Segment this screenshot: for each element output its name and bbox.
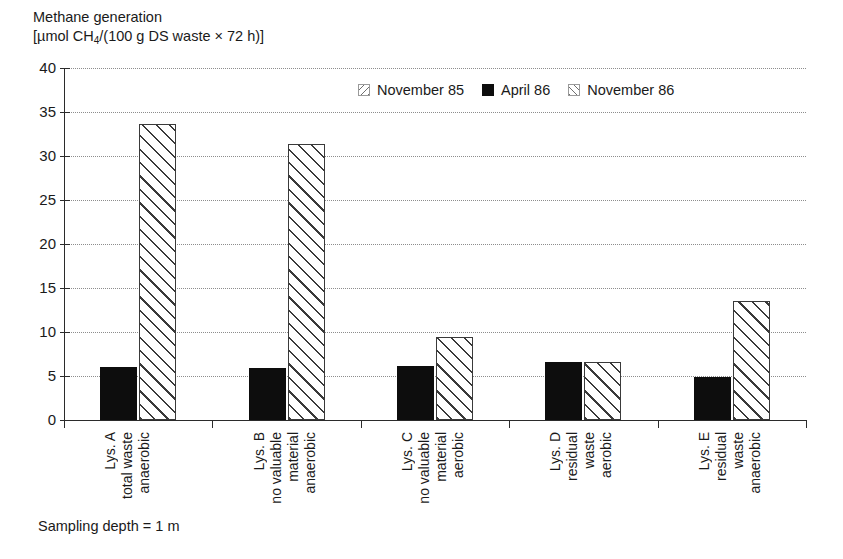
x-category-label-line: Lys. E: [696, 432, 713, 470]
gridline: [64, 68, 806, 69]
y-tick-label: 40: [39, 59, 56, 76]
x-category-label-line: residual: [564, 432, 581, 481]
bar-april-86-a: [100, 367, 137, 420]
x-category-label-lys-c: Lys. Cno valuablematerialaerobic: [399, 432, 467, 528]
x-axis-spine: [64, 420, 807, 421]
x-category-label-line: Lys. C: [399, 432, 416, 471]
x-category-label-line: total waste: [119, 432, 136, 499]
y-tick-label: 10: [39, 323, 56, 340]
chart-axis-title: Methane generation [µmol CH4/(100 g DS w…: [33, 8, 264, 47]
x-category-label-line: waste: [730, 432, 747, 469]
bar-november-86-c: [436, 337, 473, 420]
gridline: [64, 112, 806, 113]
x-category-label-line: no valuable: [268, 432, 285, 504]
x-tick-mark: [361, 421, 362, 428]
plot-area: [64, 68, 806, 420]
x-category-label-line: no valuable: [416, 432, 433, 504]
axis-title-units-pre: [µmol CH: [33, 28, 94, 44]
x-category-label-line: anaerobic: [136, 432, 153, 494]
x-category-label-lys-b: Lys. Bno valuablematerialanaerobic: [251, 432, 319, 528]
y-axis-spine: 0510152025303540: [64, 68, 65, 421]
x-category-label-line: material: [285, 432, 302, 482]
x-category-label-line: anaerobic: [747, 432, 764, 494]
y-tick-mark: [60, 200, 70, 201]
x-category-label-lys-e: Lys. Eresidualwasteanaerobic: [696, 432, 764, 528]
x-category-label-line: waste: [581, 432, 598, 469]
bar-november-86-a: [139, 124, 176, 420]
y-tick-label: 5: [48, 367, 56, 384]
x-category-label-line: Lys. D: [547, 432, 564, 471]
y-tick-mark: [60, 112, 70, 113]
bar-november-86-d: [584, 362, 621, 420]
y-tick-mark: [60, 244, 70, 245]
y-tick-mark: [60, 376, 70, 377]
y-tick-mark: [60, 288, 70, 289]
x-category-label-line: Lys. A: [102, 432, 119, 470]
y-tick-mark: [60, 332, 70, 333]
x-category-label-line: residual: [713, 432, 730, 481]
axis-title-subscript: 4: [94, 35, 100, 46]
y-tick-label: 0: [48, 411, 56, 428]
x-category-label-line: aerobic: [598, 432, 615, 478]
axis-title-line-1: Methane generation: [33, 8, 264, 27]
bar-november-86-b: [288, 144, 325, 420]
x-category-label-lys-d: Lys. Dresidualwasteaerobic: [547, 432, 615, 528]
methane-generation-chart: Methane generation [µmol CH4/(100 g DS w…: [0, 0, 843, 559]
y-tick-label: 15: [39, 279, 56, 296]
x-tick-mark: [212, 421, 213, 428]
axis-title-line-2: [µmol CH4/(100 g DS waste × 72 h)]: [33, 27, 264, 47]
bar-april-86-c: [397, 366, 434, 420]
y-tick-label: 35: [39, 103, 56, 120]
x-category-label-line: material: [433, 432, 450, 482]
axis-title-units-post: /(100 g DS waste × 72 h)]: [99, 28, 264, 44]
x-category-label-line: Lys. B: [251, 432, 268, 470]
bar-april-86-d: [545, 362, 582, 420]
x-tick-mark: [509, 421, 510, 428]
x-category-label-line: anaerobic: [302, 432, 319, 494]
y-tick-label: 20: [39, 235, 56, 252]
y-tick-label: 25: [39, 191, 56, 208]
y-tick-mark: [60, 156, 70, 157]
y-tick-label: 30: [39, 147, 56, 164]
x-category-label-lys-a: Lys. Atotal wasteanaerobic: [102, 432, 153, 528]
x-category-label-line: aerobic: [450, 432, 467, 478]
x-tick-mark: [806, 421, 807, 428]
bar-april-86-b: [249, 368, 286, 420]
bar-november-86-e: [733, 301, 770, 420]
y-tick-mark: [60, 68, 70, 69]
x-tick-mark: [64, 421, 65, 428]
bar-april-86-e: [694, 377, 731, 420]
x-tick-mark: [658, 421, 659, 428]
